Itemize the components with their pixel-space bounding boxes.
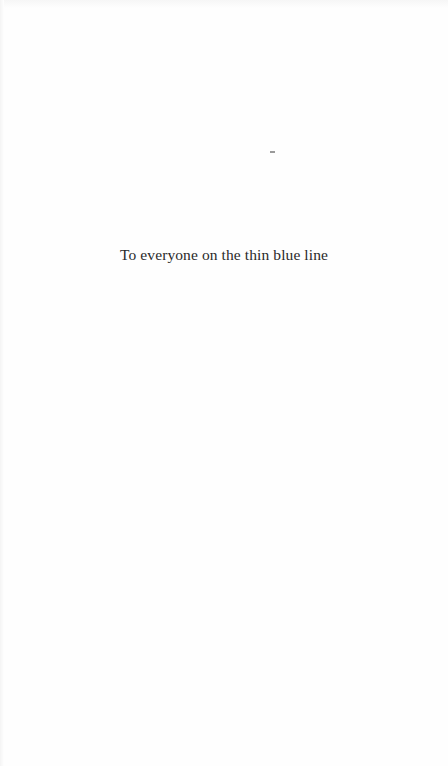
scan-edge-top (0, 0, 448, 8)
book-page: To everyone on the thin blue line (0, 0, 448, 766)
scan-edge-left (0, 0, 4, 766)
scan-artifact-mark (270, 151, 275, 153)
dedication-text: To everyone on the thin blue line (0, 246, 448, 264)
